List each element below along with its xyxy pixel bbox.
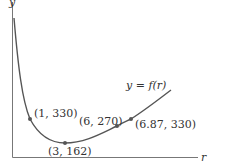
point-1-330 — [28, 117, 32, 121]
x-axis-label: r — [201, 151, 207, 164]
chart: y r (1, 330) (3, 162) (6, 270) (6.87, 33… — [0, 0, 237, 168]
point-label-6-87-330: (6.87, 330) — [135, 118, 196, 131]
y-axis-label: y — [8, 0, 16, 9]
point-label-6-270: (6, 270) — [79, 115, 123, 128]
curve-label: y = f(r) — [125, 79, 166, 92]
point-label-1-330: (1, 330) — [34, 107, 78, 120]
point-6-87-330 — [129, 117, 133, 121]
point-label-3-162: (3, 162) — [48, 145, 92, 158]
